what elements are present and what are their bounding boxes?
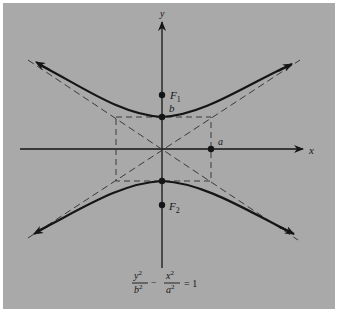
vertex-label: b <box>169 102 175 114</box>
upper-branch <box>38 64 288 117</box>
vertex-top-point <box>159 114 165 120</box>
hyperbola-equation: y2 b2 − x2 a2 = 1 <box>132 269 197 295</box>
svg-text:a2: a2 <box>166 283 175 295</box>
asymptote-1 <box>28 60 298 240</box>
upper-right-arrow <box>278 64 292 71</box>
a-point <box>208 146 214 152</box>
svg-text:x2: x2 <box>165 269 174 281</box>
hyperbola-diagram: x y F1 b a F2 y2 b2 − x2 a2 = 1 <box>0 0 338 316</box>
svg-text:y2: y2 <box>133 269 142 281</box>
focus-bottom-label: F2 <box>168 200 180 215</box>
a-label: a <box>218 136 223 147</box>
svg-text:b2: b2 <box>134 283 143 295</box>
upper-left-arrow <box>36 62 50 70</box>
x-axis-label: x <box>308 144 314 156</box>
svg-text:−: − <box>151 277 157 288</box>
focus-top-point <box>159 92 165 98</box>
vertex-bottom-point <box>159 178 165 184</box>
lower-left-arrow <box>34 226 48 234</box>
y-axis-label: y <box>159 8 165 19</box>
svg-text:= 1: = 1 <box>184 278 197 289</box>
focus-bottom-point <box>159 202 165 208</box>
